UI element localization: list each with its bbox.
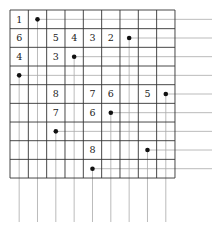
- cell-number: 6: [108, 88, 114, 99]
- cell-number: 3: [53, 51, 59, 62]
- cell-number: 8: [53, 88, 59, 99]
- dot-marker: [164, 92, 169, 97]
- cell-number: 2: [108, 32, 114, 43]
- grid-canvas: 165432438765768: [0, 0, 218, 226]
- dot-marker: [54, 129, 59, 134]
- cell-number: 3: [89, 32, 95, 43]
- guide-lines: [19, 19, 212, 222]
- cell-number: 6: [89, 107, 95, 118]
- cell-number: 5: [144, 88, 150, 99]
- dot-marker: [109, 110, 114, 115]
- puzzle-diagram: 165432438765768: [0, 0, 218, 226]
- dot-marker: [35, 17, 40, 22]
- dot-marker: [145, 148, 150, 153]
- dot-marker: [90, 166, 95, 171]
- dot-marker: [72, 54, 77, 59]
- cell-number: 6: [16, 32, 22, 43]
- cell-number: 4: [71, 32, 77, 43]
- cell-number: 4: [16, 51, 22, 62]
- cell-number: 1: [16, 14, 22, 25]
- cell-number: 8: [89, 144, 95, 155]
- cell-number: 7: [53, 107, 59, 118]
- dot-marker: [127, 36, 132, 41]
- dot-marker: [17, 73, 22, 78]
- cell-number: 5: [53, 32, 59, 43]
- cell-number: 7: [89, 88, 95, 99]
